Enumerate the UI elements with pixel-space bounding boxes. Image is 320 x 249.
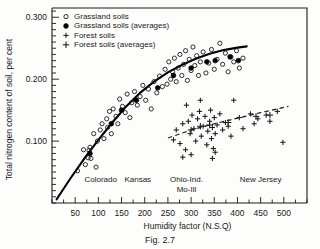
data-point [212, 115, 217, 120]
data-point [155, 91, 159, 95]
x-axis-tick-label: 400 [230, 208, 244, 218]
legend-label: Grassland soils (averages) [74, 21, 169, 30]
legend-label: Forest soils (averages) [74, 40, 156, 49]
data-point [109, 132, 113, 136]
data-point [174, 127, 179, 132]
data-point [180, 155, 185, 160]
data-point [240, 126, 245, 131]
region-annotation: Kansas [124, 175, 151, 184]
data-point [172, 56, 176, 60]
data-point [128, 115, 132, 119]
x-axis-tick-label: 50 [70, 208, 80, 218]
data-point [88, 151, 93, 156]
data-point [118, 97, 122, 101]
legend-marker [63, 42, 69, 48]
data-point [241, 56, 245, 60]
x-axis-tick-label: 100 [91, 208, 105, 218]
data-point [212, 67, 216, 71]
data-point [220, 127, 225, 132]
data-point [188, 131, 193, 136]
data-point [180, 121, 185, 126]
data-point [188, 127, 194, 133]
data-point [204, 71, 208, 75]
data-point [98, 128, 102, 132]
data-point [232, 60, 236, 64]
data-point [267, 119, 272, 124]
data-point [209, 47, 213, 51]
data-point [183, 147, 188, 152]
data-point [135, 103, 139, 107]
data-point [134, 98, 139, 103]
data-point [111, 107, 115, 111]
data-point [201, 50, 205, 54]
legend-label: Forest soils [74, 31, 115, 40]
chart-canvas: 0.1000.2000.300Total nitrogen content of… [0, 0, 320, 249]
data-point [193, 138, 198, 143]
data-point [141, 83, 145, 87]
data-point [174, 80, 178, 84]
data-point [83, 163, 87, 167]
x-axis-title: Humidity factor (N.S.Q) [144, 221, 232, 231]
data-point [195, 116, 200, 121]
data-point [185, 78, 189, 82]
data-point [197, 109, 202, 114]
y-axis-tick-label: 0.100 [26, 136, 48, 146]
data-point [228, 55, 233, 60]
data-point [204, 59, 209, 64]
y-axis-tick-label: 0.200 [26, 74, 48, 84]
data-point [228, 134, 233, 139]
data-point [105, 117, 109, 121]
data-point [171, 137, 176, 142]
x-axis-tick-label: 150 [114, 208, 128, 218]
region-annotation: Colorado [84, 175, 117, 184]
data-point [252, 121, 257, 126]
data-point [248, 111, 253, 116]
data-point [94, 165, 98, 169]
data-point [92, 132, 96, 136]
data-point [198, 60, 202, 64]
legend-marker [64, 15, 68, 19]
data-point [236, 58, 241, 63]
y-axis-title: Total nitrogen content of soil, per cent [4, 38, 14, 180]
figure-container: 0.1000.2000.300Total nitrogen content of… [0, 0, 320, 249]
data-point [218, 41, 222, 45]
x-axis-tick-label: 350 [207, 208, 221, 218]
data-point [102, 137, 106, 141]
data-point [237, 66, 241, 70]
data-point [199, 134, 204, 139]
x-axis-tick-label: 300 [184, 208, 198, 218]
data-point [160, 85, 164, 89]
data-point [138, 94, 142, 98]
data-point [210, 156, 215, 161]
data-point [125, 92, 129, 96]
data-point [171, 73, 176, 78]
data-point [196, 73, 200, 77]
x-axis-tick-label: 500 [277, 208, 291, 218]
data-point [209, 136, 214, 141]
data-point [186, 119, 191, 124]
data-point [167, 60, 171, 64]
data-point [119, 108, 124, 113]
data-point [210, 125, 215, 130]
data-point [198, 98, 203, 103]
data-point [267, 112, 273, 118]
data-point [163, 67, 167, 71]
data-point [231, 98, 236, 103]
data-point [213, 131, 218, 136]
data-point [226, 70, 230, 74]
data-point [180, 73, 184, 77]
data-point [177, 141, 182, 146]
data-point [155, 85, 160, 90]
region-annotation: Mo-Ill [177, 185, 197, 194]
data-point [188, 152, 193, 157]
data-point [81, 148, 85, 152]
region-annotation: New Jersey [240, 175, 282, 184]
x-axis-tick-label: 200 [138, 208, 152, 218]
data-point [221, 62, 225, 66]
data-point [191, 45, 195, 49]
data-point [184, 103, 189, 108]
data-point [144, 98, 148, 102]
data-point [165, 82, 169, 86]
data-point [204, 142, 209, 147]
data-point [109, 121, 114, 126]
